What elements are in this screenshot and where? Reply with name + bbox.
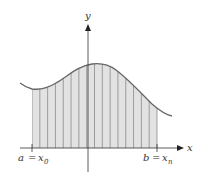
left-endpoint-label: a = x 0 (18, 152, 49, 166)
y-axis-arrow-icon (85, 24, 91, 31)
svg-text:=: = (28, 152, 36, 163)
right-endpoint-label: b = x n (143, 152, 173, 166)
riemann-sum-diagram: x y a = x 0 b = x n (0, 0, 202, 182)
svg-text:a: a (18, 152, 24, 163)
svg-text:n: n (168, 158, 173, 166)
y-axis-label: y (84, 10, 91, 21)
x-axis-arrow-icon (177, 145, 184, 151)
x-axis-label: x (187, 142, 193, 153)
svg-text:b: b (143, 152, 149, 163)
svg-text:=: = (152, 152, 160, 163)
svg-text:0: 0 (44, 158, 49, 166)
